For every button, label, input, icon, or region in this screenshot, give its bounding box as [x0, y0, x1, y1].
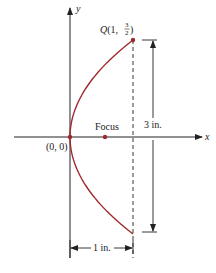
- q-frac-denominator: 2: [125, 29, 129, 37]
- q-label-close: ): [130, 24, 133, 36]
- vertex-point: [68, 135, 72, 139]
- focus-point: [103, 135, 107, 139]
- origin-label: (0, 0): [46, 141, 68, 153]
- focus-label: Focus: [95, 121, 119, 132]
- q-point: [131, 38, 135, 42]
- parabola-diagram: y x Q(1, 3 2 ) Focus (0, 0) 3 in. 1 in.: [0, 0, 216, 273]
- y-axis-label: y: [75, 3, 81, 14]
- q-frac-numerator: 3: [125, 21, 129, 29]
- q-point-label: Q(1,: [100, 24, 118, 36]
- width-dim-label: 1 in.: [93, 242, 111, 253]
- height-dim-label: 3 in.: [144, 119, 162, 130]
- x-axis-label: x: [204, 131, 210, 142]
